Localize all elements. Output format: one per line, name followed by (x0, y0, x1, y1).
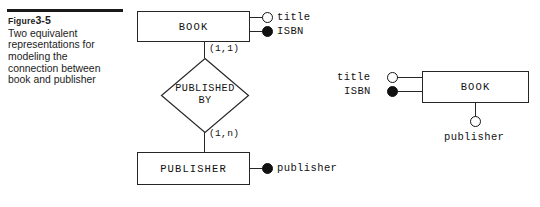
right-entity-book: BOOK (422, 71, 529, 103)
left-relationship-published-by: PUBLISHED BY (160, 57, 250, 134)
right-isbn-connector (397, 91, 422, 92)
right-title-connector (397, 77, 422, 78)
right-entity-book-label: BOOK (461, 81, 491, 93)
right-publisher-connector (475, 103, 476, 117)
right-attr-title-label: title (337, 71, 371, 83)
right-attr-isbn-label: ISBN (344, 85, 371, 97)
right-attr-publisher-label: publisher (444, 131, 504, 143)
left-attr-publisher-label: publisher (277, 162, 337, 174)
filled-circle-icon (262, 26, 273, 37)
figure-page: Figure3-5 Two equivalent representations… (0, 0, 540, 207)
left-attr-isbn-label: ISBN (277, 25, 304, 37)
left-entity-publisher: PUBLISHER (137, 152, 250, 185)
figure-caption-heading: Figure3-5 (8, 15, 120, 28)
caption-rule (7, 9, 123, 12)
left-entity-publisher-label: PUBLISHER (160, 163, 227, 175)
hollow-circle-icon (262, 12, 273, 23)
figure-caption: Figure3-5 Two equivalent representations… (8, 15, 120, 86)
left-entity-book-label: BOOK (179, 21, 209, 33)
left-book-to-relationship-line (204, 42, 205, 58)
left-cardinality-bottom: (1,n) (209, 128, 239, 139)
left-cardinality-top: (1,1) (209, 43, 239, 54)
left-relationship-to-publisher-line (204, 132, 205, 152)
hollow-circle-icon (470, 116, 481, 127)
left-entity-book: BOOK (137, 11, 250, 42)
left-attr-title-label: title (277, 11, 311, 23)
figure-caption-text: Two equivalent representations for model… (8, 28, 120, 87)
figure-label-word: Figure (8, 16, 35, 26)
figure-number: 3-5 (35, 14, 50, 26)
filled-circle-icon (262, 163, 273, 174)
